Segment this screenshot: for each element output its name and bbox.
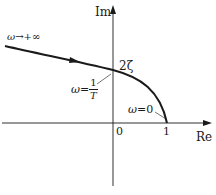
arrow-glyph: → <box>15 31 23 42</box>
omega-symbol: ω <box>71 83 80 96</box>
omega-symbol: ω <box>128 103 137 116</box>
fraction: 1T <box>89 78 97 101</box>
zero-value: 0 <box>146 103 153 116</box>
fraction-numerator: 1 <box>89 78 97 90</box>
real-axis-arrow-icon <box>203 120 212 126</box>
omega-corner-label: ω=1T <box>71 78 98 101</box>
equals-sign: = <box>80 83 89 96</box>
equals-sign: = <box>137 103 146 116</box>
omega-zero-label: ω=0 <box>128 104 153 115</box>
leader-line-corner <box>97 74 111 84</box>
origin-label: 0 <box>116 126 123 137</box>
intercept-label: 2ζ <box>119 60 133 72</box>
imag-axis-label: Im <box>95 6 111 18</box>
unit-tick-label: 1 <box>163 126 170 137</box>
direction-arrow-icon <box>69 57 80 63</box>
real-axis-label: Re <box>196 131 212 143</box>
nyquist-diagram: Im Re 0 1 ω→+∞ 2ζ ω=1T ω=0 <box>0 0 216 195</box>
omega-infinity-label: ω→+∞ <box>7 32 40 42</box>
omega-symbol: ω <box>7 31 15 42</box>
infinity-value: +∞ <box>24 31 41 42</box>
plot-canvas <box>0 0 216 195</box>
fraction-denominator: T <box>89 90 97 101</box>
